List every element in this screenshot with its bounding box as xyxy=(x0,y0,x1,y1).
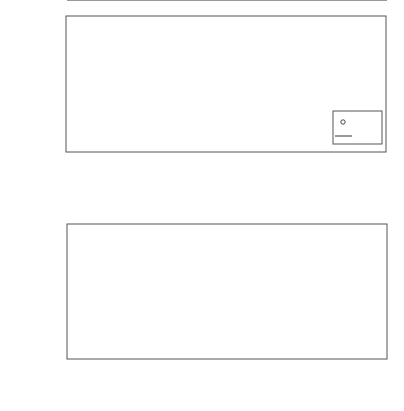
cdf-chart xyxy=(66,16,386,152)
figure xyxy=(0,0,404,411)
legend-box xyxy=(333,111,382,144)
bottom-plot-frame xyxy=(67,224,387,359)
difference-chart xyxy=(67,0,387,359)
legend xyxy=(333,111,382,144)
